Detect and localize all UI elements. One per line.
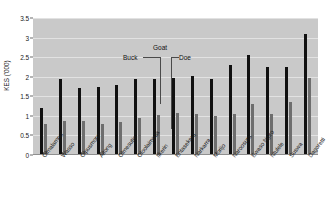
bar-buck: [115, 85, 118, 155]
bar-buck: [191, 76, 194, 155]
bar-series-container: [33, 18, 318, 155]
y-tick-label: 2.5: [20, 54, 29, 61]
bar-buck: [97, 87, 100, 156]
bar-group: [172, 18, 179, 155]
bar-group: [134, 18, 141, 155]
bar-buck: [59, 79, 62, 155]
bar-doe: [308, 78, 311, 156]
bar-doe: [289, 102, 292, 155]
bar-buck: [304, 34, 307, 155]
plot-area: Goat Buck Doe: [33, 18, 318, 155]
y-tick-label: 3.5: [20, 15, 29, 22]
y-tick-label: 1: [25, 112, 29, 119]
bar-buck: [78, 88, 81, 155]
y-tick-label: 0.5: [20, 132, 29, 139]
y-axis-title: KES ('000): [3, 53, 10, 99]
bar-group: [40, 18, 47, 155]
bar-group: [78, 18, 85, 155]
bar-group: [285, 18, 292, 155]
bar-buck: [153, 79, 156, 155]
bar-buck: [285, 67, 288, 155]
x-axis-labels: OlmalampuWassoOlpusmoroAitongOlmesutieOl…: [33, 155, 318, 217]
bar-group: [304, 18, 311, 155]
bar-buck: [210, 79, 213, 155]
bar-buck: [134, 79, 137, 155]
y-tick-label: 1.5: [20, 93, 29, 100]
bar-group: [115, 18, 122, 155]
bar-buck: [229, 65, 232, 155]
bar-buck: [172, 78, 175, 155]
y-tick-label: 0: [25, 152, 29, 159]
y-axis: KES ('000) 00.511.522.533.5: [0, 0, 33, 165]
bar-group: [229, 18, 236, 155]
y-tick-label: 3: [25, 34, 29, 41]
bar-buck: [40, 108, 43, 155]
bar-group: [210, 18, 217, 155]
y-tick-label: 2: [25, 73, 29, 80]
bar-doe: [251, 104, 254, 155]
